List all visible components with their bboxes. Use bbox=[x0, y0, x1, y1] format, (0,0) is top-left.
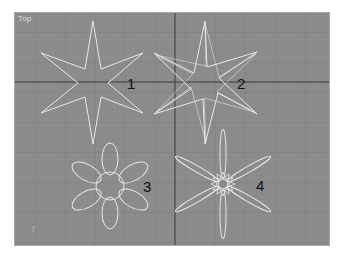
shape-label-2: 2 bbox=[237, 76, 245, 91]
shape-label-4: 4 bbox=[256, 178, 264, 193]
shape-label-1: 1 bbox=[127, 76, 135, 91]
viewport-grid-and-shapes bbox=[15, 13, 330, 246]
viewport-label[interactable]: Top bbox=[18, 14, 32, 23]
top-viewport[interactable]: Top 1 2 3 4 bbox=[14, 12, 330, 246]
shape-label-3: 3 bbox=[143, 179, 151, 194]
